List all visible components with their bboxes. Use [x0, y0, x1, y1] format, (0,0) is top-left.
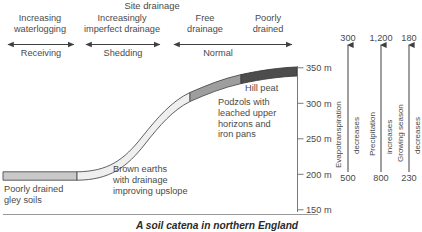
drainage-class-poorly-drained: Poorly drained: [253, 13, 284, 34]
figure-caption: A soil catena in northern England: [136, 220, 298, 231]
elevation-label-150: 150 m: [306, 205, 332, 216]
drainage-class-increasing-waterlogging: Increasing waterlogging: [14, 13, 66, 34]
soil-label-gley: Poorly drained gley soils: [4, 184, 63, 206]
elevation-label-300: 300 m: [306, 99, 332, 110]
growing-season-trend-label: decreases: [413, 92, 422, 154]
growing-season-bottom-value: 230: [401, 173, 416, 184]
precipitation-variable-label: Precipitation: [368, 86, 377, 156]
elevation-label-250: 250 m: [306, 134, 332, 145]
evapotranspiration-trend-label: decreases: [352, 92, 361, 154]
precipitation-bottom-value: 800: [373, 173, 388, 184]
precipitation-top-value: 1,200: [370, 33, 393, 44]
band-gley: [3, 172, 77, 180]
elevation-axis: [298, 66, 304, 212]
elevation-label-200: 200 m: [306, 170, 332, 181]
process-zone-shedding: Shedding: [104, 48, 143, 59]
evapotranspiration-variable-label: Evapotranspiration: [334, 72, 343, 168]
soil-label-hill-peat: Hill peat: [245, 83, 278, 94]
process-zone-receiving: Receiving: [21, 48, 61, 59]
evapotranspiration-bottom-value: 500: [340, 173, 355, 184]
soil-label-brown-earths: Brown earths with drainage improving ups…: [113, 164, 188, 196]
process-zone-normal: Normal: [203, 48, 233, 59]
growing-season-top-value: 180: [401, 33, 416, 44]
growing-season-variable-label: Growing season: [396, 82, 405, 162]
evapotranspiration-top-value: 300: [340, 33, 355, 44]
soil-label-podzols: Podzols with leached upper horizons and …: [218, 97, 276, 140]
precipitation-trend-label: increases: [385, 92, 394, 154]
band-hill-peat: [241, 67, 297, 84]
drainage-class-increasingly-imperfect-drainage: Increasingly imperfect drainage: [84, 13, 160, 34]
site-drainage-title: Site drainage: [124, 1, 179, 12]
drainage-class-free-drainage: Free drainage: [187, 13, 223, 34]
soil-catena-figure: Site drainage Increasing waterlogging In…: [0, 0, 422, 232]
elevation-label-350: 350 m: [306, 63, 332, 74]
